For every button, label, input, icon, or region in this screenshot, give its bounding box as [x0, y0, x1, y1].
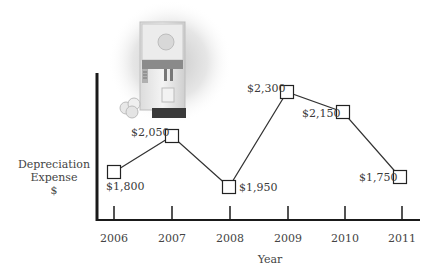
data-label-2010: $2,150	[302, 107, 341, 120]
x-tick-label-2009: 2009	[268, 232, 308, 245]
y-axis-label-line-2: Expense	[14, 171, 94, 184]
y-axis-label-line-3: $	[14, 184, 94, 197]
espresso-machine-illustration	[108, 0, 232, 124]
chart-svg	[0, 0, 439, 270]
x-tick-label-2007: 2007	[152, 232, 192, 245]
x-tick-label-2011: 2011	[382, 232, 422, 245]
x-tick-label-2008: 2008	[210, 232, 250, 245]
data-label-2007: $2,050	[131, 126, 170, 139]
x-tick-label-2010: 2010	[325, 232, 365, 245]
x-axis-ticks	[114, 206, 402, 220]
x-tick-label-2006: 2006	[94, 232, 134, 245]
y-axis-label: Depreciation Expense $	[14, 158, 94, 197]
x-axis-label: Year	[250, 253, 290, 266]
marker-2006	[108, 166, 121, 179]
marker-2008	[223, 181, 236, 194]
data-label-2009: $2,300	[247, 82, 286, 95]
data-label-2006: $1,800	[106, 180, 145, 193]
data-label-2008: $1,950	[239, 181, 278, 194]
data-label-2011: $1,750	[359, 171, 398, 184]
y-axis-label-line-1: Depreciation	[14, 158, 94, 171]
